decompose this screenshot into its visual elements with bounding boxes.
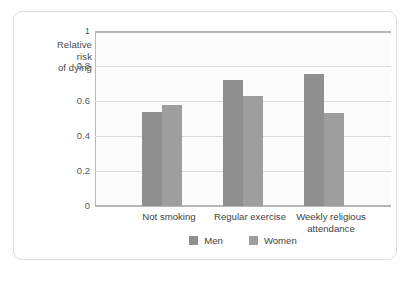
plot-top-axis-line [95,31,391,33]
gridline-0.8 [95,66,391,67]
legend-swatch-women-icon [249,236,258,245]
bar-men-not-smoking [142,112,162,207]
y-axis-tick-labels: 1 0.8 0.6 0.4 0.2 0 [62,12,90,225]
y-tick-label-0.8: 0.8 [64,60,90,71]
y-tick-label-0: 0 [64,200,90,211]
chart-card: Relative risk of dying 1 0.8 0.6 0.4 0.2… [13,11,397,260]
x-axis-label-weekly-religious-attendance: Weekly religious attendance [271,211,391,234]
y-tick-label-0.6: 0.6 [64,95,90,106]
bar-women-regular-exercise [243,96,263,206]
y-tick-label-0.4: 0.4 [64,130,90,141]
bar-women-not-smoking [162,105,182,207]
legend-swatch-men-icon [189,236,198,245]
x-axis-label-line: Weekly religious [271,211,391,223]
chart-legend: Men Women [95,235,391,246]
y-tick-label-1: 1 [64,25,90,36]
y-tick-label-0.2: 0.2 [64,165,90,176]
plot-area [95,31,391,206]
bar-women-weekly-religious-attendance [324,113,344,206]
bar-men-weekly-religious-attendance [304,74,324,206]
plot-left-axis-line [95,31,96,206]
legend-entry-women[interactable]: Women [249,235,297,246]
legend-label-women: Women [264,235,297,246]
bar-men-regular-exercise [223,80,243,206]
legend-label-men: Men [204,235,223,246]
legend-entry-men[interactable]: Men [189,235,223,246]
x-axis-label-line: attendance [271,223,391,235]
